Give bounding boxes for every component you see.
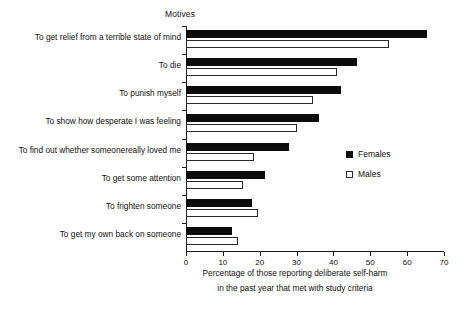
x-axis-label-line: Percentage of those reporting deliberate… xyxy=(130,266,460,281)
bar-males xyxy=(186,153,254,161)
x-tick xyxy=(186,252,187,256)
bar-females xyxy=(186,171,265,179)
bar-females xyxy=(186,227,232,235)
bar-females xyxy=(186,58,357,66)
y-tick xyxy=(182,167,186,168)
y-tick xyxy=(182,223,186,224)
x-axis-label: Percentage of those reporting deliberate… xyxy=(130,266,460,296)
x-tick xyxy=(333,252,334,256)
bar-males xyxy=(186,40,389,48)
bar-females xyxy=(186,199,252,207)
y-tick xyxy=(182,195,186,196)
y-tick xyxy=(182,139,186,140)
legend-entry: Females xyxy=(346,144,391,164)
legend-swatch-icon xyxy=(346,151,353,158)
bar-group: To die xyxy=(186,58,444,82)
bar-group: To find out whether someonereally loved … xyxy=(186,143,444,167)
y-tick xyxy=(182,54,186,55)
category-label: To find out whether someonereally loved … xyxy=(19,145,181,155)
category-label: To show how desperate I was feeling xyxy=(45,116,181,126)
bar-males xyxy=(186,68,337,76)
x-tick xyxy=(260,252,261,256)
chart-legend: FemalesMales xyxy=(346,144,391,184)
legend-label: Females xyxy=(358,149,391,159)
chart-title: Motives xyxy=(0,9,360,19)
bar-group: To punish myself xyxy=(186,86,444,110)
y-tick xyxy=(182,26,186,27)
x-tick xyxy=(297,252,298,256)
bar-group: To frighten someone xyxy=(186,199,444,223)
bar-males xyxy=(186,209,258,217)
legend-swatch-icon xyxy=(346,171,353,178)
bar-group: To get some attention xyxy=(186,171,444,195)
x-axis-label-line: in the past year that met with study cri… xyxy=(130,281,460,296)
bar-group: To get relief from a terrible state of m… xyxy=(186,30,444,54)
legend-label: Males xyxy=(358,169,381,179)
bar-females xyxy=(186,114,319,122)
x-tick xyxy=(223,252,224,256)
bar-males xyxy=(186,181,243,189)
legend-entry: Males xyxy=(346,164,391,184)
bar-males xyxy=(186,124,297,132)
bar-group: To get my own back on someone xyxy=(186,227,444,251)
x-tick xyxy=(407,252,408,256)
bar-females xyxy=(186,86,341,94)
bar-females xyxy=(186,30,427,38)
category-label: To punish myself xyxy=(119,88,181,98)
category-label: To get my own back on someone xyxy=(60,229,181,239)
x-tick xyxy=(444,252,445,256)
bar-males xyxy=(186,237,238,245)
bar-females xyxy=(186,143,289,151)
category-label: To get relief from a terrible state of m… xyxy=(35,32,181,42)
bar-chart: Motives 010203040506070 To get relief fr… xyxy=(0,0,466,311)
bar-males xyxy=(186,96,313,104)
category-label: To die xyxy=(159,60,181,70)
bar-group: To show how desperate I was feeling xyxy=(186,114,444,138)
category-label: To get some attention xyxy=(102,173,181,183)
x-tick xyxy=(370,252,371,256)
category-label: To frighten someone xyxy=(106,201,181,211)
plot-area: 010203040506070 To get relief from a ter… xyxy=(186,26,444,251)
x-axis-line xyxy=(186,251,444,252)
